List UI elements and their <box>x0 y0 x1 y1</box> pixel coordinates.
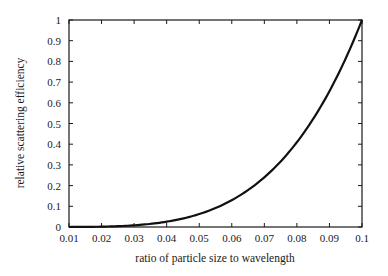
y-tick-label: 0.3 <box>47 159 61 171</box>
x-axis-label: ratio of particle size to wavelength <box>135 252 295 265</box>
data-line <box>69 20 362 227</box>
y-tick-label: 0 <box>56 221 62 233</box>
y-tick-label: 0.6 <box>47 97 61 109</box>
y-tick-label: 0.5 <box>47 118 61 130</box>
y-tick-label: 0.2 <box>47 180 61 192</box>
x-tick-label: 0.07 <box>255 232 275 244</box>
x-axis: 0.010.020.030.040.050.060.070.080.090.1 <box>59 20 369 244</box>
x-tick-label: 0.08 <box>287 232 307 244</box>
y-tick-label: 0.1 <box>47 200 61 212</box>
x-tick-label: 0.05 <box>190 232 210 244</box>
y-tick-label: 0.8 <box>47 55 61 67</box>
x-tick-label: 0.09 <box>320 232 340 244</box>
chart: 0.010.020.030.040.050.060.070.080.090.1 … <box>0 0 388 276</box>
plot-frame <box>69 20 362 227</box>
y-tick-label: 0.9 <box>47 35 61 47</box>
y-axis-label: relative scattering efficiency <box>14 57 27 188</box>
y-axis: 00.10.20.30.40.50.60.70.80.91 <box>47 14 362 233</box>
y-tick-label: 0.4 <box>47 138 61 150</box>
x-tick-label: 0.02 <box>92 232 111 244</box>
x-tick-label: 0.01 <box>59 232 78 244</box>
y-tick-label: 1 <box>56 14 62 26</box>
x-tick-label: 0.03 <box>124 232 144 244</box>
x-tick-label: 0.06 <box>222 232 242 244</box>
x-tick-label: 0.04 <box>157 232 177 244</box>
y-tick-label: 0.7 <box>47 76 61 88</box>
x-tick-label: 0.1 <box>355 232 369 244</box>
